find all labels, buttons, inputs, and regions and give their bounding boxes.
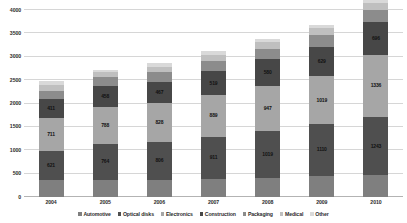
- data-label-construction-2005: 458: [101, 94, 109, 99]
- bar-segment-packaging-2009[interactable]: [309, 35, 334, 46]
- bar-group-2005[interactable]: 764788458: [93, 70, 118, 197]
- bar-segment-automotive-2008[interactable]: [255, 178, 280, 197]
- legend-item-other[interactable]: Other: [310, 211, 328, 217]
- legend-item-construction[interactable]: Construction: [200, 211, 236, 217]
- legend-label-electronics: Electronics: [166, 211, 193, 217]
- legend-label-other: Other: [315, 211, 328, 217]
- bar-segment-packaging-2006[interactable]: [147, 72, 172, 81]
- bar-group-2010[interactable]: 12431336696: [363, 0, 388, 197]
- bar-segment-medical-2005[interactable]: [93, 72, 118, 77]
- bar-segment-other-2008[interactable]: [255, 39, 280, 43]
- data-label-construction-2004: 411: [47, 106, 55, 111]
- bar-segment-automotive-2005[interactable]: [93, 180, 118, 197]
- bar-segment-other-2005[interactable]: [93, 70, 118, 72]
- bar-segment-packaging-2004[interactable]: [39, 91, 64, 99]
- bar-segment-optical-disks-2007[interactable]: 911: [201, 137, 226, 180]
- bar-segment-medical-2010[interactable]: [363, 3, 388, 10]
- data-label-electronics-2006: 828: [155, 120, 163, 125]
- bars-layer: 6217114117647884588068284679118895191019…: [24, 10, 403, 197]
- bar-group-2006[interactable]: 806828467: [147, 63, 172, 197]
- bar-segment-electronics-2006[interactable]: 828: [147, 103, 172, 142]
- bar-segment-packaging-2005[interactable]: [93, 77, 118, 86]
- plot-area: 05001000150020002500300035004000 6217114…: [24, 10, 403, 197]
- data-label-construction-2010: 696: [372, 36, 380, 41]
- legend-item-medical[interactable]: Medical: [280, 211, 303, 217]
- data-label-optical-disks-2009: 1110: [317, 147, 327, 152]
- x-axis: 2004200520062007200820092010: [24, 199, 403, 209]
- data-label-optical-disks-2010: 1243: [371, 144, 382, 149]
- bar-segment-packaging-2008[interactable]: [255, 49, 280, 60]
- data-label-electronics-2005: 788: [101, 123, 109, 128]
- bar-segment-automotive-2006[interactable]: [147, 180, 172, 197]
- bar-segment-optical-disks-2008[interactable]: 1019: [255, 131, 280, 179]
- bar-segment-optical-disks-2010[interactable]: 1243: [363, 117, 388, 175]
- bar-segment-other-2007[interactable]: [201, 51, 226, 55]
- legend-label-automotive: Automotive: [83, 211, 111, 217]
- data-label-electronics-2004: 711: [47, 132, 55, 137]
- x-tick-label-2009: 2009: [316, 199, 327, 205]
- bar-segment-electronics-2009[interactable]: 1019: [309, 76, 334, 124]
- legend-swatch-automotive: [78, 212, 82, 216]
- bar-segment-construction-2008[interactable]: 580: [255, 59, 280, 86]
- y-tick-label-500: 500: [13, 170, 21, 176]
- bar-group-2008[interactable]: 1019947580: [255, 39, 280, 197]
- stacked-bar-chart: 05001000150020002500300035004000 6217114…: [0, 0, 407, 223]
- bar-segment-automotive-2009[interactable]: [309, 176, 334, 197]
- bar-segment-other-2006[interactable]: [147, 63, 172, 67]
- x-tick-label-2008: 2008: [262, 199, 273, 205]
- bar-group-2004[interactable]: 621711411: [39, 81, 64, 197]
- bar-segment-electronics-2008[interactable]: 947: [255, 86, 280, 130]
- bar-segment-other-2009[interactable]: [309, 25, 334, 29]
- bar-segment-packaging-2010[interactable]: [363, 10, 388, 22]
- legend-swatch-optical-disks: [118, 212, 122, 216]
- data-label-electronics-2009: 1019: [317, 98, 328, 103]
- bar-segment-construction-2005[interactable]: 458: [93, 86, 118, 107]
- x-tick-label-2007: 2007: [208, 199, 219, 205]
- bar-segment-construction-2004[interactable]: 411: [39, 99, 64, 118]
- y-tick-label-3000: 3000: [10, 53, 21, 59]
- bar-segment-construction-2007[interactable]: 519: [201, 71, 226, 95]
- x-tick-label-2006: 2006: [154, 199, 165, 205]
- bar-segment-automotive-2007[interactable]: [201, 179, 226, 197]
- data-label-optical-disks-2004: 621: [47, 163, 55, 168]
- bar-segment-medical-2004[interactable]: [39, 85, 64, 90]
- bar-segment-optical-disks-2009[interactable]: 1110: [309, 124, 334, 176]
- bar-segment-medical-2009[interactable]: [309, 28, 334, 35]
- x-tick-label-2005: 2005: [100, 199, 111, 205]
- bar-segment-electronics-2010[interactable]: 1336: [363, 55, 388, 117]
- bar-segment-optical-disks-2005[interactable]: 764: [93, 144, 118, 180]
- y-tick-label-1500: 1500: [10, 123, 21, 129]
- bar-segment-medical-2007[interactable]: [201, 55, 226, 61]
- bar-segment-construction-2009[interactable]: 629: [309, 47, 334, 76]
- legend-swatch-construction: [200, 212, 204, 216]
- bar-segment-medical-2008[interactable]: [255, 42, 280, 49]
- bar-segment-optical-disks-2004[interactable]: 621: [39, 151, 64, 180]
- y-tick-label-4000: 4000: [10, 7, 21, 13]
- bar-segment-electronics-2004[interactable]: 711: [39, 118, 64, 151]
- bar-segment-electronics-2005[interactable]: 788: [93, 107, 118, 144]
- bar-segment-automotive-2010[interactable]: [363, 175, 388, 197]
- legend-label-medical: Medical: [285, 211, 303, 217]
- bar-segment-packaging-2007[interactable]: [201, 61, 226, 71]
- bar-segment-automotive-2004[interactable]: [39, 180, 64, 197]
- bar-group-2007[interactable]: 911889519: [201, 51, 226, 197]
- legend-swatch-medical: [280, 212, 284, 216]
- data-label-construction-2009: 629: [318, 59, 326, 64]
- x-tick-label-2004: 2004: [45, 199, 56, 205]
- legend-item-packaging[interactable]: Packaging: [243, 211, 273, 217]
- legend-label-construction: Construction: [205, 211, 236, 217]
- bar-segment-construction-2006[interactable]: 467: [147, 82, 172, 104]
- legend-item-optical-disks[interactable]: Optical disks: [118, 211, 154, 217]
- bar-group-2009[interactable]: 11101019629: [309, 25, 334, 197]
- bar-segment-medical-2006[interactable]: [147, 67, 172, 73]
- legend-item-electronics[interactable]: Electronics: [161, 211, 193, 217]
- legend-item-automotive[interactable]: Automotive: [78, 211, 111, 217]
- bar-segment-optical-disks-2006[interactable]: 806: [147, 142, 172, 180]
- bar-segment-other-2004[interactable]: [39, 81, 64, 85]
- data-label-construction-2007: 519: [210, 81, 218, 86]
- bar-segment-other-2010[interactable]: [363, 0, 388, 3]
- legend-swatch-electronics: [161, 212, 165, 216]
- bar-segment-construction-2010[interactable]: 696: [363, 22, 388, 55]
- data-label-optical-disks-2006: 806: [155, 158, 163, 163]
- bar-segment-electronics-2007[interactable]: 889: [201, 95, 226, 137]
